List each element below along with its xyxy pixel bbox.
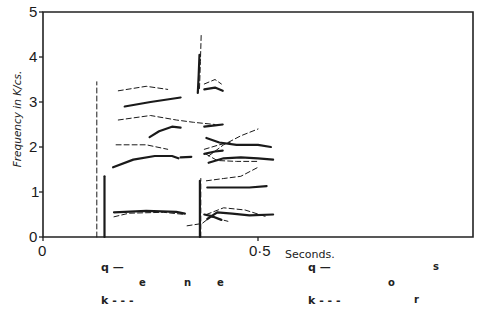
legend-k-left: k - - -	[101, 294, 134, 307]
spectrogram-chart	[0, 0, 481, 315]
phoneme-o: o	[388, 277, 395, 288]
phoneme-e1: e	[139, 277, 146, 288]
formant-trace	[209, 157, 274, 162]
formant-trace	[118, 116, 215, 125]
formant-trace	[204, 80, 221, 85]
series-k	[97, 35, 267, 238]
formant-trace	[204, 151, 222, 154]
x-tick-0: 0	[38, 242, 46, 259]
y-tick-5: 5	[29, 3, 37, 20]
y-tick-0: 0	[29, 228, 37, 245]
formant-trace	[125, 98, 181, 107]
phoneme-e2: e	[217, 277, 224, 288]
x-tick-05: 0·5	[249, 242, 271, 259]
formant-trace	[118, 86, 167, 91]
axes-frame	[43, 12, 473, 237]
legend-q-right: q —	[308, 261, 331, 274]
formant-trace	[114, 212, 185, 217]
formant-trace	[150, 127, 181, 137]
y-tick-2: 2	[29, 138, 37, 155]
series-layer	[97, 35, 273, 238]
legend-q-left: q —	[101, 261, 124, 274]
y-tick-4: 4	[29, 48, 37, 65]
legend-k-right: k - - -	[308, 294, 341, 307]
phoneme-s: s	[433, 261, 439, 272]
formant-trace	[116, 145, 168, 150]
series-q	[105, 55, 274, 237]
formant-trace	[207, 186, 266, 187]
formant-trace	[206, 167, 258, 181]
y-tick-1: 1	[31, 183, 39, 200]
formant-trace	[181, 157, 192, 158]
x-axis-label: Seconds.	[285, 248, 335, 261]
formant-trace	[113, 156, 178, 167]
y-tick-3: 3	[29, 93, 37, 110]
formant-trace	[204, 88, 222, 91]
phoneme-r: r	[414, 294, 419, 305]
phoneme-n: n	[184, 277, 191, 288]
y-axis-label: Frequency in K/cs.	[11, 54, 23, 184]
